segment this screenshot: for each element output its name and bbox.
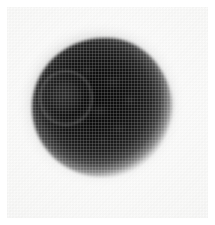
photographic-plate — [7, 7, 208, 218]
inner-ring — [39, 70, 93, 126]
figure-root — [0, 0, 215, 225]
specimen-group — [7, 7, 208, 218]
